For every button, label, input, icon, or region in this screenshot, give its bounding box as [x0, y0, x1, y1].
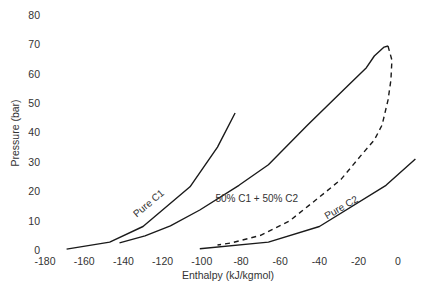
y-tick-label: 80 — [28, 9, 40, 21]
x-tick-label: -160 — [74, 255, 95, 267]
curve-50-c1-50-c2-bubble-curve — [120, 46, 389, 243]
y-tick-label: 50 — [28, 97, 40, 109]
y-tick-label: 60 — [28, 68, 40, 80]
x-tick-label: -100 — [191, 255, 212, 267]
y-tick-label: 20 — [28, 185, 40, 197]
x-tick-label: 0 — [395, 255, 401, 267]
curve-labels: Pure C150% C1 + 50% C2Pure C2 — [131, 187, 360, 221]
y-tick-label: 70 — [28, 38, 40, 50]
plot-curves — [67, 46, 416, 249]
x-tick-label: -140 — [113, 255, 134, 267]
x-tick-label: -120 — [152, 255, 173, 267]
x-axis-label: Enthalpy (kJ/kgmol) — [182, 269, 274, 281]
y-tick-label: 10 — [28, 215, 40, 227]
enthalpy-pressure-chart: 01020304050607080 -180-160-140-120-100-8… — [0, 0, 427, 289]
x-tick-label: -80 — [233, 255, 248, 267]
curve-label: 50% C1 + 50% C2 — [215, 193, 298, 204]
curve-label: Pure C2 — [323, 193, 361, 221]
y-axis-label: Pressure (bar) — [9, 99, 21, 166]
y-axis-ticks: 01020304050607080 — [28, 9, 40, 256]
x-tick-label: -60 — [273, 255, 288, 267]
curve-pure-c2 — [200, 159, 416, 249]
curve-50-c1-50-c2-dew-curve — [218, 46, 392, 245]
y-tick-label: 30 — [28, 156, 40, 168]
curve-pure-c1 — [67, 113, 236, 249]
x-tick-label: -180 — [34, 255, 55, 267]
x-tick-label: -40 — [312, 255, 327, 267]
y-tick-label: 40 — [28, 126, 40, 138]
x-tick-label: -20 — [351, 255, 366, 267]
x-axis-ticks: -180-160-140-120-100-80-60-40-200 — [34, 255, 400, 267]
curve-label: Pure C1 — [131, 187, 167, 219]
